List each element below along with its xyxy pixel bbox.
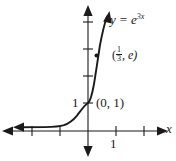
exponential-curve bbox=[20, 17, 107, 128]
x-axis-label: x bbox=[166, 122, 172, 135]
curve-tail-arrowhead bbox=[13, 123, 24, 132]
exponential-function-figure: y = e3x (13, e) (0, 1) 1 1 x bbox=[0, 0, 176, 161]
y-axis-tick-label-1: 1 bbox=[72, 96, 79, 109]
marked-point-one-third-e bbox=[95, 53, 99, 57]
x-axis-tick-label-1: 1 bbox=[110, 137, 117, 150]
point-label-one-third-e: (13, e) bbox=[112, 47, 137, 65]
point-label-y-intercept: (0, 1) bbox=[96, 96, 124, 109]
y-axis-bottom-arrowhead bbox=[83, 146, 92, 157]
curve-equation-label: y = e3x bbox=[110, 13, 144, 26]
x-axis-left-arrowhead bbox=[2, 127, 13, 136]
plot-canvas bbox=[0, 0, 176, 161]
fraction-one-third: 13 bbox=[116, 46, 122, 64]
curve-equation-base: y = e bbox=[110, 12, 137, 27]
y-axis-top-arrowhead bbox=[83, 5, 92, 16]
curve-equation-exponent: 3x bbox=[137, 12, 145, 21]
fraction-denominator: 3 bbox=[116, 55, 122, 63]
point-label-e-rest: , e) bbox=[122, 48, 137, 62]
